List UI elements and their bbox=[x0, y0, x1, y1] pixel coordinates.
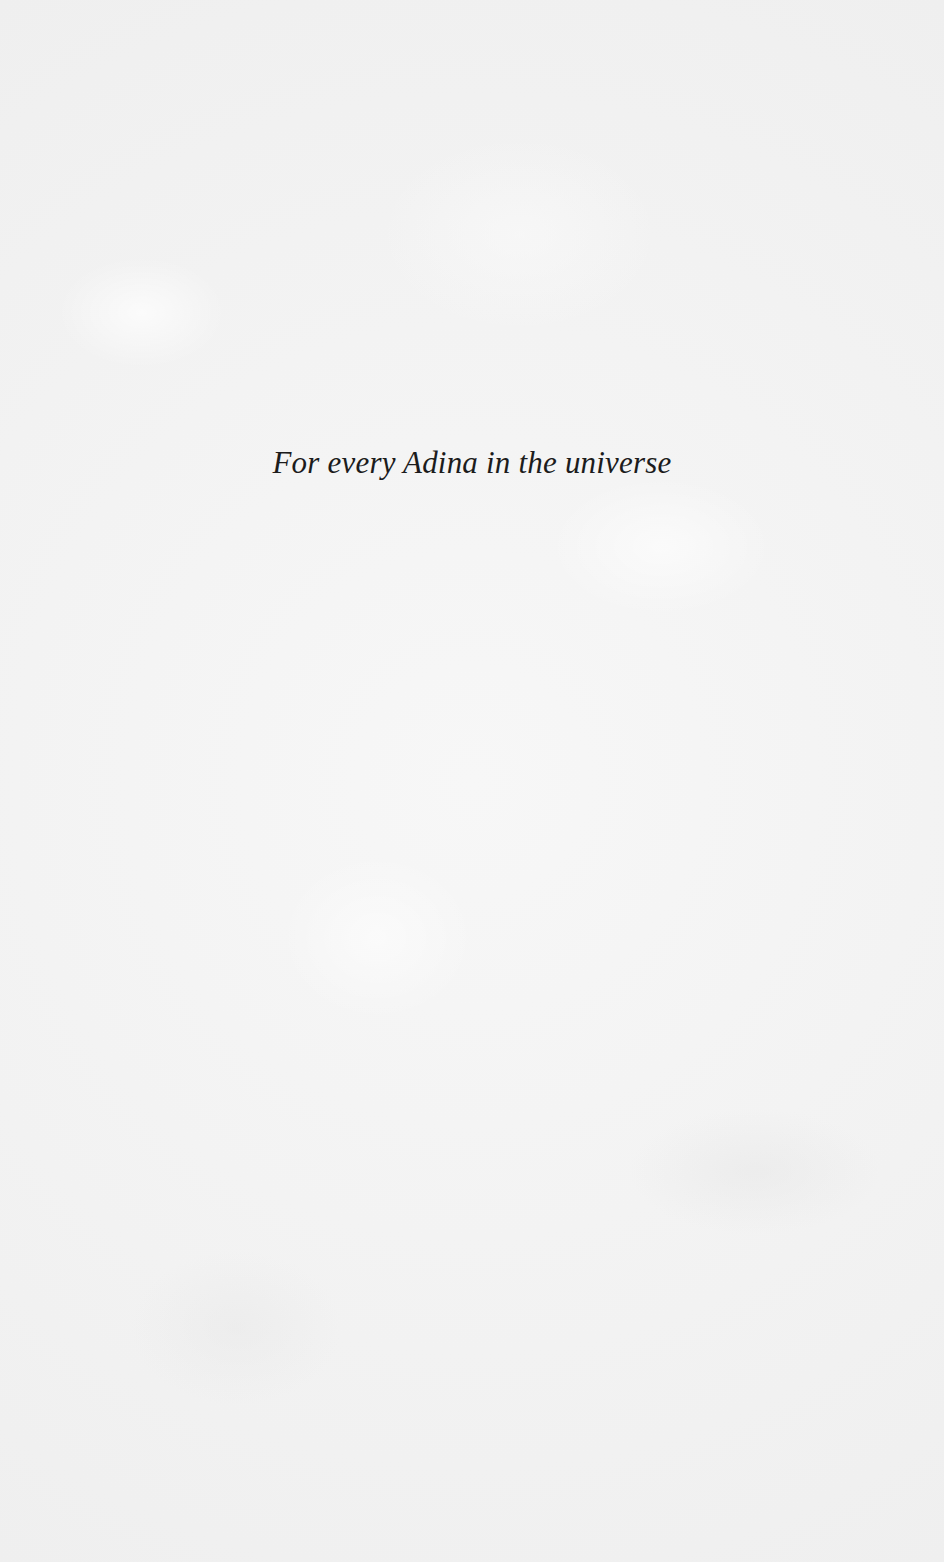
dedication-text: For every Adina in the universe bbox=[0, 443, 944, 483]
book-page: For every Adina in the universe bbox=[0, 0, 944, 1562]
